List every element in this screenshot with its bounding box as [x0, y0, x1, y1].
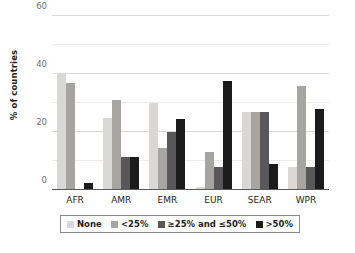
bar	[223, 81, 232, 190]
x-axis-tick-label: EMR	[158, 195, 178, 205]
legend-swatch-icon	[111, 221, 118, 228]
bar-group: SEAR	[237, 16, 283, 190]
x-axis-tick-label: EUR	[204, 195, 223, 205]
bar-groups: AFRAMREMREURSEARWPR	[52, 16, 329, 190]
bar	[205, 152, 214, 190]
legend-swatch-icon	[67, 221, 74, 228]
bar	[242, 112, 251, 190]
bar	[315, 109, 324, 190]
chart-legend: None<25%≥25% and ≤50%>50%	[60, 215, 300, 233]
bar	[214, 167, 223, 190]
y-axis-tick-label: 0	[42, 175, 47, 185]
x-axis-tick-label: WPR	[296, 195, 317, 205]
y-axis-tick-label: 40	[36, 59, 47, 69]
bar	[57, 74, 66, 190]
y-axis-tick-label: 20	[36, 117, 47, 127]
x-axis-tick-label: SEAR	[248, 195, 272, 205]
bar	[269, 164, 278, 190]
bar	[121, 157, 130, 190]
bar-group: EMR	[144, 16, 190, 190]
bar	[158, 148, 167, 190]
y-axis-title: % of countries	[9, 35, 23, 135]
legend-swatch-icon	[256, 221, 263, 228]
bar-group: WPR	[283, 16, 329, 190]
bar	[149, 103, 158, 190]
bar	[251, 112, 260, 190]
plot-area: 0204060 AFRAMREMREURSEARWPR	[52, 16, 329, 190]
bar	[66, 83, 75, 190]
bar	[297, 86, 306, 190]
legend-swatch-icon	[158, 221, 165, 228]
bar	[260, 112, 269, 190]
legend-item[interactable]: <25%	[111, 219, 148, 229]
y-axis-tick-label: 60	[36, 1, 47, 11]
bar	[103, 118, 112, 191]
legend-item[interactable]: None	[67, 219, 102, 229]
bar	[130, 157, 139, 190]
x-axis-line	[52, 189, 329, 190]
bar	[112, 100, 121, 190]
bar-group: EUR	[191, 16, 237, 190]
bar-group: AMR	[98, 16, 144, 190]
bar	[306, 167, 315, 190]
legend-label: >50%	[266, 219, 293, 229]
x-axis-tick-label: AMR	[111, 195, 131, 205]
legend-label: <25%	[121, 219, 148, 229]
bar-chart-figure: % of countries 0204060 AFRAMREMREURSEARW…	[0, 0, 355, 253]
legend-label: None	[77, 219, 102, 229]
legend-item[interactable]: ≥25% and ≤50%	[158, 219, 247, 229]
bar-group: AFR	[52, 16, 98, 190]
bar	[176, 119, 185, 190]
bar	[167, 132, 176, 190]
legend-label: ≥25% and ≤50%	[168, 219, 247, 229]
bar	[288, 167, 297, 190]
x-axis-tick-label: AFR	[66, 195, 84, 205]
legend-item[interactable]: >50%	[256, 219, 293, 229]
